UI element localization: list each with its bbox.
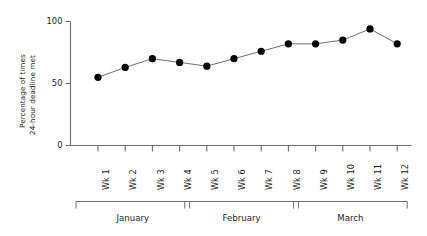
chart-figure: Percentage of times 24-hour deadline met…: [0, 0, 427, 236]
chart-month-brackets: [76, 202, 407, 209]
x-axis-tick-label: Wk 2: [128, 169, 138, 190]
month-group-label: March: [294, 213, 408, 223]
y-axis-label-line1: Percentage of times: [18, 54, 27, 128]
data-point-marker: [94, 74, 101, 81]
data-point-marker: [176, 59, 183, 66]
x-axis-tick-label: Wk 5: [210, 169, 220, 190]
x-axis-tick-label: Wk 8: [292, 169, 302, 190]
x-axis-tick-label: Wk 6: [237, 169, 247, 190]
chart-axes: [66, 22, 412, 152]
data-point-marker: [285, 40, 292, 47]
x-axis-tick-label: Wk 11: [373, 164, 383, 190]
y-axis-tick-label: 50: [35, 78, 63, 88]
chart-series-deadline-met: [94, 25, 400, 81]
month-bracket: [76, 202, 190, 209]
y-axis-tick-label: 0: [35, 140, 63, 150]
x-axis-tick-label: Wk 10: [346, 164, 356, 190]
data-point-marker: [366, 25, 373, 32]
data-point-marker: [149, 55, 156, 62]
data-point-marker: [230, 55, 237, 62]
series-line: [98, 29, 397, 77]
month-group-label: February: [185, 213, 299, 223]
data-point-marker: [312, 40, 319, 47]
x-axis-tick-label: Wk 7: [264, 169, 274, 190]
month-bracket: [185, 202, 299, 209]
data-point-marker: [258, 48, 265, 55]
y-axis-label-line2: 24-hour deadline met: [28, 55, 37, 135]
data-point-marker: [203, 63, 210, 70]
x-axis-tick-label: Wk 3: [156, 169, 166, 190]
data-point-marker: [394, 40, 401, 47]
data-point-marker: [122, 64, 129, 71]
x-axis-tick-label: Wk 4: [183, 169, 193, 190]
data-point-marker: [339, 37, 346, 44]
x-axis-tick-label: Wk 12: [400, 164, 410, 190]
x-axis-tick-label: Wk 9: [319, 169, 329, 190]
x-axis-tick-label: Wk 1: [101, 169, 111, 190]
month-bracket: [294, 202, 408, 209]
y-axis-tick-label: 100: [35, 16, 63, 26]
chart-plot-area: [0, 0, 427, 236]
month-group-label: January: [76, 213, 190, 223]
